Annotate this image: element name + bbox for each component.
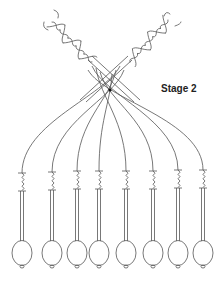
thread-wound-icon bbox=[178, 170, 180, 188]
bobbins bbox=[12, 170, 213, 268]
thread-wound-icon bbox=[126, 171, 128, 189]
bobbin bbox=[143, 171, 163, 268]
thread bbox=[52, 70, 124, 172]
braids bbox=[44, 10, 182, 67]
thread bbox=[22, 66, 120, 173]
bobbin bbox=[67, 171, 87, 268]
braid-end bbox=[44, 22, 49, 30]
bobbin bbox=[42, 172, 62, 268]
thread-band bbox=[92, 56, 140, 100]
threads bbox=[22, 56, 203, 173]
thread-wound-icon bbox=[203, 170, 205, 188]
bobbin-spangle bbox=[89, 241, 109, 266]
bobbin-spangle bbox=[193, 241, 213, 266]
thread-band bbox=[88, 60, 134, 102]
bobbin-spangle bbox=[12, 241, 32, 266]
thread bbox=[100, 72, 153, 171]
lace-bobbin-diagram bbox=[0, 0, 219, 284]
bobbin-spangle bbox=[116, 241, 136, 266]
bobbin-spangle bbox=[143, 241, 163, 266]
thread-wound-icon bbox=[99, 171, 101, 189]
thread bbox=[92, 66, 178, 170]
bobbin bbox=[168, 170, 188, 268]
bobbin-spangle bbox=[42, 241, 62, 266]
pin-dot bbox=[108, 88, 111, 91]
stage-label: Stage 2 bbox=[161, 83, 197, 94]
braid-end bbox=[164, 12, 170, 16]
braid-end bbox=[54, 10, 59, 18]
bobbin-spangle bbox=[168, 241, 188, 266]
thread-wound-icon bbox=[77, 171, 79, 189]
bobbin bbox=[12, 173, 32, 268]
thread-wound-icon bbox=[52, 172, 54, 190]
braid-end bbox=[175, 22, 181, 26]
bobbin bbox=[193, 170, 213, 268]
bobbin bbox=[89, 171, 109, 268]
bobbin-spangle bbox=[67, 241, 87, 266]
thread-wound-icon bbox=[22, 173, 24, 191]
thread-wound-icon bbox=[153, 171, 155, 189]
bobbin bbox=[116, 171, 136, 268]
